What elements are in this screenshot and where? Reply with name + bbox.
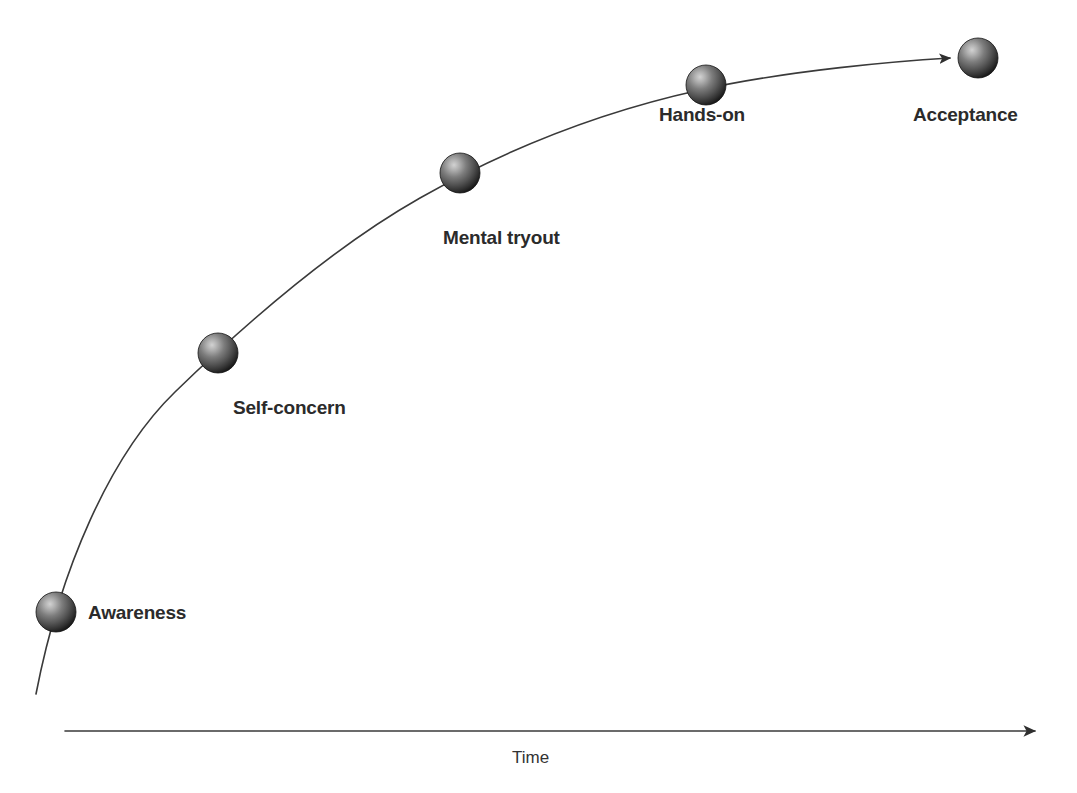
adoption-curve-diagram: Awareness Self-concern Mental tryout Han… [0,0,1077,793]
node-acceptance[interactable] [958,38,998,78]
node-label-awareness: Awareness [88,603,186,622]
adoption-curve [36,58,950,694]
node-hands-on[interactable] [686,65,726,105]
node-mental-tryout[interactable] [440,153,480,193]
stage-node-group [36,38,998,632]
node-label-acceptance: Acceptance [913,105,1018,124]
node-label-self-concern: Self-concern [233,398,346,417]
time-axis-label: Time [512,749,549,766]
node-awareness[interactable] [36,592,76,632]
sphere-node-icon [958,38,998,78]
sphere-node-icon [440,153,480,193]
sphere-node-icon [686,65,726,105]
sphere-node-icon [198,333,238,373]
node-label-hands-on: Hands-on [659,105,745,124]
node-self-concern[interactable] [198,333,238,373]
node-label-mental-tryout: Mental tryout [443,228,560,247]
sphere-node-icon [36,592,76,632]
